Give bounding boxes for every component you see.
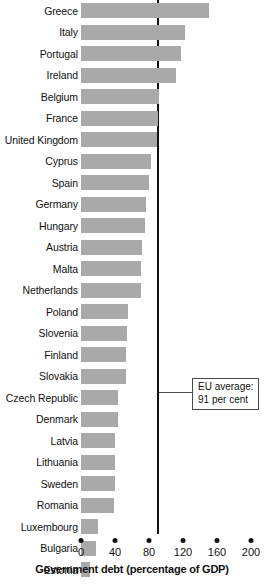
bar-row: Lithuania — [0, 452, 264, 474]
bar-germany — [81, 197, 146, 212]
bar-row: Denmark — [0, 409, 264, 431]
bar-hungary — [81, 218, 145, 233]
bar-france — [81, 111, 158, 126]
eu-average-callout-line1: EU average: — [198, 381, 254, 394]
x-tick-label-120: 120 — [174, 546, 192, 559]
bar-row: Portugal — [0, 43, 264, 65]
bar-label-luxembourg: Luxembourg — [21, 521, 78, 532]
bar-label-slovakia: Slovakia — [39, 371, 78, 382]
bar-row: Latvia — [0, 430, 264, 452]
bar-label-denmark: Denmark — [36, 414, 78, 425]
x-tick-dot-160 — [215, 538, 220, 543]
bar-label-cyprus: Cyprus — [45, 156, 78, 167]
bar-latvia — [81, 433, 115, 448]
bar-row: United Kingdom — [0, 129, 264, 151]
bar-label-germany: Germany — [36, 199, 78, 210]
eu-average-callout-line2: 91 per cent — [198, 394, 254, 407]
bar-label-portugal: Portugal — [40, 48, 78, 59]
bar-label-italy: Italy — [59, 27, 78, 38]
bar-label-slovenia: Slovenia — [39, 328, 78, 339]
government-debt-bar-chart: GreeceItalyPortugalIrelandBelgiumFranceU… — [0, 0, 264, 587]
x-tick-dot-0 — [79, 538, 84, 543]
x-axis: Government debt (percentage of GDP) 0408… — [0, 534, 264, 587]
eu-average-callout: EU average: 91 per cent — [192, 378, 259, 410]
bar-row: Hungary — [0, 215, 264, 237]
bar-lithuania — [81, 455, 115, 470]
bar-row: Ireland — [0, 65, 264, 87]
bar-label-austria: Austria — [46, 242, 78, 253]
bar-label-france: France — [46, 113, 78, 124]
x-tick-dot-40 — [113, 538, 118, 543]
x-tick-label-40: 40 — [109, 546, 121, 559]
bar-row: Italy — [0, 22, 264, 44]
x-tick-label-80: 80 — [143, 546, 155, 559]
bar-cyprus — [81, 154, 151, 169]
x-tick-dot-80 — [147, 538, 152, 543]
bar-row: Cyprus — [0, 151, 264, 173]
bar-finland — [81, 347, 126, 362]
bar-luxembourg — [81, 519, 98, 534]
bar-italy — [81, 25, 185, 40]
bar-malta — [81, 261, 141, 276]
bar-row: Malta — [0, 258, 264, 280]
bar-row: Sweden — [0, 473, 264, 495]
bar-belgium — [81, 89, 159, 104]
bar-row: Netherlands — [0, 280, 264, 302]
bar-row: Poland — [0, 301, 264, 323]
bar-row: France — [0, 108, 264, 130]
bar-spain — [81, 175, 149, 190]
bar-label-belgium: Belgium — [41, 91, 78, 102]
bar-czech-republic — [81, 390, 118, 405]
bar-romania — [81, 498, 114, 513]
bar-label-hungary: Hungary — [39, 220, 78, 231]
x-tick-label-200: 200 — [242, 546, 260, 559]
bar-label-greece: Greece — [44, 5, 78, 16]
bar-label-poland: Poland — [46, 306, 78, 317]
bar-row: Spain — [0, 172, 264, 194]
bar-label-sweden: Sweden — [41, 478, 78, 489]
bar-united-kingdom — [81, 132, 157, 147]
plot-area: GreeceItalyPortugalIrelandBelgiumFranceU… — [0, 0, 264, 534]
bar-row: Finland — [0, 344, 264, 366]
bar-label-malta: Malta — [53, 263, 78, 274]
bar-row: Slovenia — [0, 323, 264, 345]
bar-portugal — [81, 46, 181, 61]
bar-greece — [81, 3, 209, 18]
x-tick-label-160: 160 — [208, 546, 226, 559]
bar-netherlands — [81, 283, 141, 298]
bar-row: Belgium — [0, 86, 264, 108]
bar-row: Austria — [0, 237, 264, 259]
bar-ireland — [81, 68, 176, 83]
bar-row: Germany — [0, 194, 264, 216]
bar-label-latvia: Latvia — [51, 435, 78, 446]
bar-sweden — [81, 476, 115, 491]
bar-denmark — [81, 412, 118, 427]
bar-label-netherlands: Netherlands — [22, 285, 78, 296]
bar-label-united-kingdom: United Kingdom — [5, 134, 78, 145]
bar-label-spain: Spain — [52, 177, 78, 188]
bar-label-ireland: Ireland — [47, 70, 78, 81]
bar-label-czech-republic: Czech Republic — [6, 392, 78, 403]
bar-label-finland: Finland — [44, 349, 78, 360]
bar-poland — [81, 304, 128, 319]
bar-row: Romania — [0, 495, 264, 517]
bar-austria — [81, 240, 142, 255]
eu-average-callout-leader — [159, 392, 192, 393]
x-axis-title: Government debt (percentage of GDP) — [0, 563, 264, 575]
x-tick-dot-120 — [181, 538, 186, 543]
bar-slovenia — [81, 326, 127, 341]
bar-label-romania: Romania — [37, 500, 78, 511]
bar-label-lithuania: Lithuania — [36, 457, 78, 468]
x-tick-label-0: 0 — [78, 546, 84, 559]
x-tick-dot-200 — [249, 538, 254, 543]
bar-row: Greece — [0, 0, 264, 22]
bar-slovakia — [81, 369, 126, 384]
